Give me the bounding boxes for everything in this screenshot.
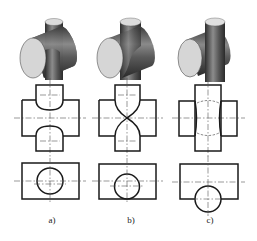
panel-label-b: b) (127, 215, 135, 225)
top-view-b (92, 158, 163, 203)
isometric-c (178, 18, 231, 82)
front-view-c (172, 78, 245, 158)
front-view-a (14, 78, 86, 158)
panel-label-c: c) (207, 215, 214, 225)
intersecting-cylinders-diagram (0, 0, 257, 241)
front-view-b (92, 78, 163, 158)
isometric-b (97, 18, 155, 80)
isometric-a (20, 19, 77, 81)
top-view-c (172, 156, 245, 216)
top-view-a (14, 158, 86, 204)
panel-label-a: a) (49, 215, 56, 225)
